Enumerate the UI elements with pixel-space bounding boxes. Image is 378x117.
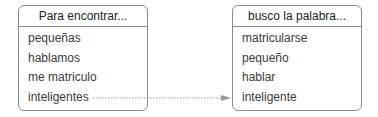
dotted-arrow-icon (0, 0, 378, 117)
